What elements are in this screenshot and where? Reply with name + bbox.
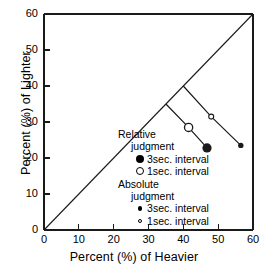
x-tick-label: 20: [99, 234, 129, 245]
y-tick-label: 60: [10, 8, 38, 19]
legend-group-absolute-title: Absolute: [118, 178, 209, 190]
x-tick-label: 10: [64, 234, 94, 245]
legend-label: 1sec. interval: [147, 165, 209, 177]
y-axis-title: Percent (%) of Lighter: [19, 33, 33, 193]
legend-item-absolute-3sec: 3sec. interval: [118, 202, 209, 214]
x-tick-label-group: 0 10 20 30 40 50 60: [0, 234, 268, 250]
absolute-1sec-point: [209, 114, 214, 119]
legend-item-relative-1sec: 1sec. interval: [118, 165, 209, 177]
absolute-3sec-point: [238, 143, 243, 148]
legend-group-relative-title: Relative: [118, 128, 209, 140]
open-small-circle-icon: [138, 219, 143, 224]
filled-small-circle-icon: [138, 206, 143, 211]
x-tick-label: 50: [203, 234, 233, 245]
legend-item-relative-3sec: 3sec. interval: [118, 153, 209, 165]
y-tick-marks: [44, 14, 50, 230]
open-large-circle-icon: [136, 167, 144, 175]
x-tick-label: 0: [29, 234, 59, 245]
legend-group-absolute-subtitle: judgment: [118, 190, 209, 202]
legend-group-relative-subtitle: judgment: [118, 140, 209, 152]
x-tick-label: 40: [168, 234, 198, 245]
legend-label: 3sec. interval: [147, 202, 209, 214]
legend-label: 3sec. interval: [147, 153, 209, 165]
chart-figure: 60 50 40 30 20 10 0 0 10 20 30 40 50 60 …: [0, 0, 268, 274]
x-tick-label: 30: [134, 234, 164, 245]
legend-label: 1sec. interval: [147, 215, 209, 227]
chart-legend: Relative judgment 3sec. interval 1sec. i…: [118, 128, 209, 227]
x-tick-label: 60: [238, 234, 268, 245]
legend-item-absolute-1sec: 1sec. interval: [118, 215, 209, 227]
x-axis-title: Percent (%) of Heavier: [0, 250, 268, 264]
filled-large-circle-icon: [136, 155, 144, 163]
